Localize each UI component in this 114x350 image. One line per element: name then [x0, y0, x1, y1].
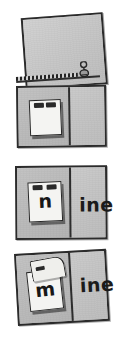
card-tab-right-icon — [46, 102, 56, 107]
figure-canvas: n ine m ine Four-step sequence showing a… — [0, 0, 114, 350]
panel-2-letter — [30, 109, 60, 110]
panel-4-word-ending: ine — [79, 272, 114, 296]
panel-2-folded-blank — [16, 85, 107, 148]
panel-4-word-mine: m ine — [14, 249, 110, 326]
panel-3-word-ending: ine — [79, 193, 114, 215]
figure-description: Four-step sequence showing a folded card… — [0, 0, 1, 1]
zipper-pull-icon — [77, 61, 91, 79]
flap-tab-icon — [35, 266, 45, 272]
panel-4-letter: m — [28, 279, 62, 301]
letter-card: n — [27, 181, 63, 223]
card-tabs — [33, 102, 57, 109]
panel-3-letter: n — [29, 191, 62, 211]
card-tab-left-icon — [34, 103, 44, 108]
panel-3-word-nine: n ine — [15, 165, 108, 240]
letter-card — [29, 99, 62, 136]
